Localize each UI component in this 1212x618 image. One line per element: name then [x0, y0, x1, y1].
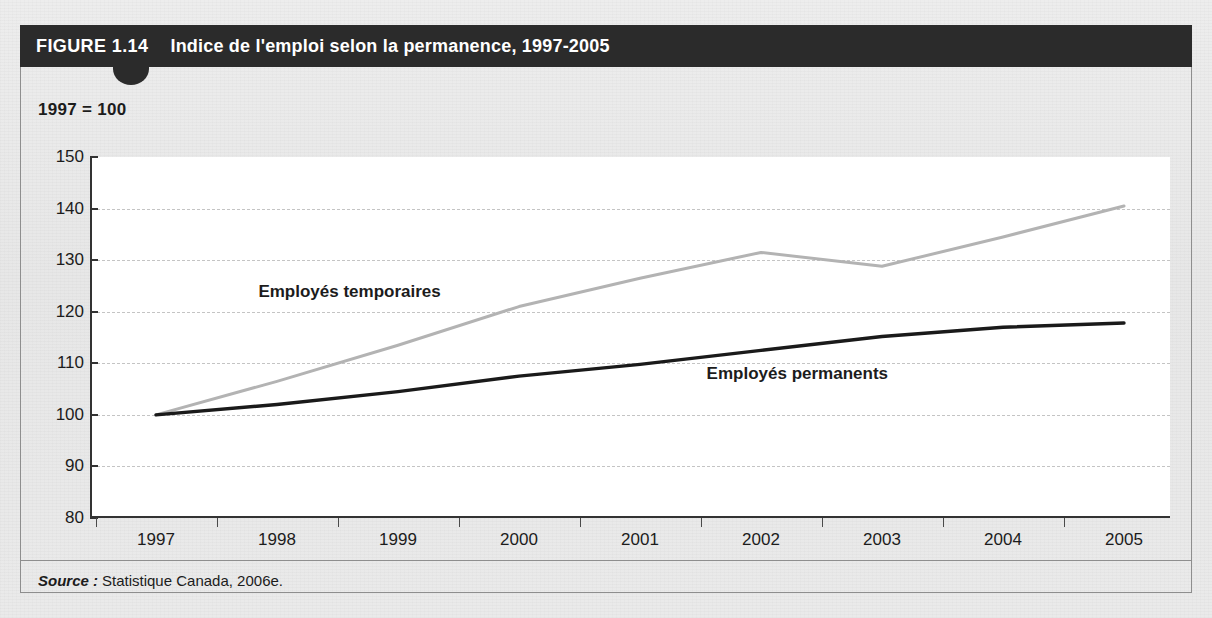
source-note: Source :Statistique Canada, 2006e. [38, 572, 283, 589]
x-tick-mark-0 [96, 518, 97, 527]
y-tick-label-100: 100 [56, 405, 84, 425]
x-axis-tick-labels: 199719981999200020012002200320042005 [38, 530, 1178, 560]
series-line-employes-temporaires [156, 206, 1124, 415]
series-label-employes-temporaires: Employés temporaires [258, 282, 440, 302]
y-tick-label-120: 120 [56, 302, 84, 322]
source-text: Statistique Canada, 2006e. [102, 572, 283, 589]
x-tick-mark-4 [580, 518, 581, 527]
y-tick-label-140: 140 [56, 199, 84, 219]
x-tick-label-2004: 2004 [984, 530, 1022, 550]
series-lines-svg [90, 157, 1170, 518]
x-tick-label-2000: 2000 [500, 530, 538, 550]
y-tick-label-80: 80 [65, 508, 84, 528]
y-tick-label-110: 110 [57, 353, 84, 373]
series-label-employes-permanents: Employés permanents [707, 364, 888, 384]
y-axis-tick-labels: 8090100110120130140150 [38, 150, 84, 525]
x-tick-label-1998: 1998 [258, 530, 296, 550]
chart-plot-region: 8090100110120130140150 19971998199920002… [38, 150, 1178, 530]
x-tick-mark-5 [701, 518, 702, 527]
source-label: Source : [38, 572, 98, 589]
x-tick-mark-3 [459, 518, 460, 527]
x-tick-mark-6 [822, 518, 823, 527]
figure-title: Indice de l'emploi selon la permanence, … [170, 36, 609, 57]
series-line-employes-permanents [156, 323, 1124, 415]
figure-container: FIGURE 1.14 Indice de l'emploi selon la … [0, 0, 1212, 618]
x-tick-mark-1 [217, 518, 218, 527]
x-tick-mark-7 [943, 518, 944, 527]
x-tick-label-2005: 2005 [1105, 530, 1143, 550]
y-axis-unit-label: 1997 = 100 [38, 100, 127, 120]
figure-number: FIGURE 1.14 [36, 36, 148, 57]
x-tick-label-2002: 2002 [742, 530, 780, 550]
figure-title-banner: FIGURE 1.14 Indice de l'emploi selon la … [20, 25, 1192, 67]
x-tick-mark-2 [338, 518, 339, 527]
x-tick-label-2003: 2003 [863, 530, 901, 550]
x-tick-label-1999: 1999 [379, 530, 417, 550]
y-tick-label-130: 130 [56, 250, 84, 270]
y-tick-label-90: 90 [65, 456, 84, 476]
y-tick-label-150: 150 [56, 147, 84, 167]
x-tick-mark-8 [1064, 518, 1065, 527]
x-tick-label-1997: 1997 [137, 530, 175, 550]
x-tick-label-2001: 2001 [621, 530, 659, 550]
source-divider [21, 560, 1191, 561]
